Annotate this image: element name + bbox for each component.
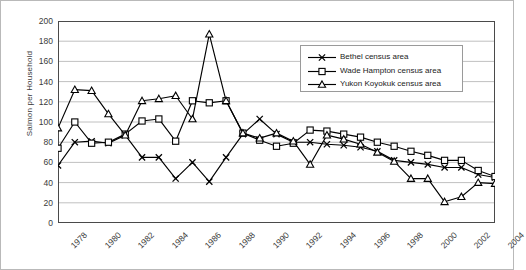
x-tick-label: 1980 [102,230,122,250]
legend-label: Bethel census area [338,52,409,61]
x-tick-label: 1982 [136,230,156,250]
y-tick-label: 60 [44,157,53,167]
x-tick-label: 2000 [438,230,458,250]
x-tick-label: 2002 [472,230,492,250]
y-tick-label: 80 [44,137,53,147]
legend-marker-x-icon [306,50,338,63]
series-x [58,116,495,185]
legend-item: Wade Hampton census area [306,64,462,78]
x-axis-tick-labels: 1978198019821984198619881990199219941996… [1,225,515,270]
x-tick-label: 2004 [506,230,526,250]
x-tick-label: 1978 [69,230,89,250]
x-tick-label: 1986 [203,230,223,250]
y-tick-label: 120 [39,97,53,107]
chart-legend: Bethel census area Wade Hampton census a… [300,45,463,92]
y-tick-label: 160 [39,56,53,66]
legend-item: Bethel census area [306,50,462,64]
legend-marker-square-icon [306,64,338,77]
x-tick-label: 1988 [237,230,257,250]
y-tick-label: 180 [39,36,53,46]
series-square [58,98,495,180]
x-tick-label: 1992 [304,230,324,250]
legend-label: Yukon Koyokuk census area [338,79,441,88]
x-tick-label: 1994 [337,230,357,250]
x-tick-label: 1990 [270,230,290,250]
y-tick-label: 200 [39,16,53,26]
y-tick-label: 140 [39,77,53,87]
y-tick-label: 20 [44,198,53,208]
legend-item: Yukon Koyokuk census area [306,77,462,91]
x-tick-label: 1998 [405,230,425,250]
legend-marker-triangle-icon [306,77,338,90]
x-tick-label: 1996 [371,230,391,250]
legend-label: Wade Hampton census area [338,66,441,75]
y-tick-label: 100 [39,117,53,127]
y-tick-label: 40 [44,178,53,188]
x-tick-label: 1984 [169,230,189,250]
